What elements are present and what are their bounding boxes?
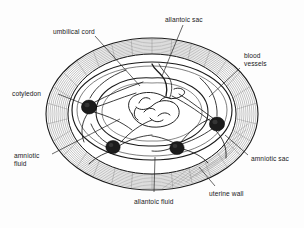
label-blood-vessels-line2: vessels [244,60,267,68]
cotyledon-node [209,117,224,131]
label-blood-vessels-line1: blood [244,52,261,60]
cotyledon-node [170,141,184,154]
label-amniotic-fluid-line2: fluid [14,160,27,168]
uterus-cross-section-figure [0,0,304,228]
label-uterine-wall: uterine wall [209,190,244,198]
label-amniotic-fluid-line1: amniotic [14,152,39,160]
label-umbilical-cord: umbilical cord [53,28,95,36]
cotyledon-node [106,140,120,153]
uterine-wall-group [46,36,258,192]
label-allantoic-sac: allantoic sac [165,16,203,24]
diagram-page: umbilical cord allantoic sac blood vesse… [0,0,304,228]
label-allantoic-fluid: allantoic fluid [134,198,174,206]
cotyledon-node [81,100,96,114]
label-cotyledon: cotyledon [12,90,41,98]
label-amniotic-sac: amniotic sac [251,155,289,163]
